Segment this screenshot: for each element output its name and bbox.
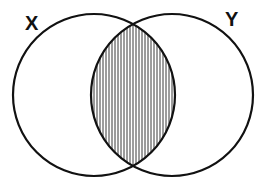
set-x-label: X <box>25 12 39 34</box>
venn-diagram: X Y <box>0 0 261 186</box>
set-y-label: Y <box>225 8 239 30</box>
